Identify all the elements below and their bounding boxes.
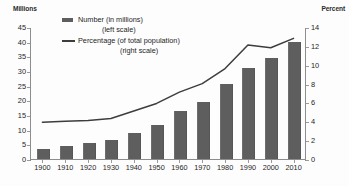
y-axis-left-tick xyxy=(27,116,30,117)
y-axis-left-tick-label: 45 xyxy=(18,24,26,31)
y-axis-left-tick-label: 35 xyxy=(18,53,26,60)
x-axis-tick-label: 2010 xyxy=(285,164,301,171)
x-axis-tick-label: 1900 xyxy=(34,164,50,171)
y-axis-left-tick xyxy=(27,131,30,132)
y-axis-left-tick-label: 20 xyxy=(18,97,26,104)
plot-area: 051015202530354045 02468101214 190019101… xyxy=(31,28,305,160)
y-axis-left-tick-label: 10 xyxy=(18,127,26,134)
y-axis-right-tick xyxy=(306,103,309,104)
y-axis-right-tick-label: 10 xyxy=(311,62,319,69)
y-axis-left-tick xyxy=(27,43,30,44)
x-axis-tick-label: 1980 xyxy=(217,164,233,171)
x-axis-tick-label: 1990 xyxy=(240,164,256,171)
y-axis-right-tick xyxy=(306,47,309,48)
y-axis-left-tick xyxy=(27,145,30,146)
y-axis-left-tick-label: 25 xyxy=(18,83,26,90)
y-axis-right-tick-label: 12 xyxy=(311,43,319,50)
y-axis-left-tick-label: 15 xyxy=(18,112,26,119)
y-axis-right-title: Percent xyxy=(322,5,346,12)
x-axis-tick-label: 2000 xyxy=(263,164,279,171)
y-axis-right-tick-label: 8 xyxy=(311,81,315,88)
y-axis-left-tick-label: 0 xyxy=(22,156,26,163)
y-axis-right-tick-label: 0 xyxy=(311,156,315,163)
y-axis-left-title: Millions xyxy=(13,5,37,12)
x-axis-tick-label: 1960 xyxy=(171,164,187,171)
y-axis-left-tick xyxy=(27,57,30,58)
filled-rectangle-icon xyxy=(62,18,73,22)
y-axis-left-tick xyxy=(27,28,30,29)
y-axis-right-tick xyxy=(306,66,309,67)
y-axis-left-tick xyxy=(27,72,30,73)
y-axis-right-tick xyxy=(306,85,309,86)
y-axis-right-tick xyxy=(306,122,309,123)
x-axis-tick-label: 1970 xyxy=(194,164,210,171)
x-axis-tick-label: 1910 xyxy=(57,164,73,171)
y-axis-left-tick-label: 40 xyxy=(18,39,26,46)
y-axis-right-tick xyxy=(306,160,309,161)
x-axis-tick-label: 1930 xyxy=(103,164,119,171)
x-axis-tick-label: 1950 xyxy=(148,164,164,171)
y-axis-left-tick-label: 30 xyxy=(18,68,26,75)
x-axis-tick-label: 1940 xyxy=(126,164,142,171)
y-axis-right-tick xyxy=(306,141,309,142)
y-axis-right-tick-label: 2 xyxy=(311,137,315,144)
y-axis-right-tick-label: 14 xyxy=(311,24,319,31)
legend-row-number: Number (in millions) xyxy=(62,15,277,25)
y-axis-left-tick-label: 5 xyxy=(22,141,26,148)
percentage-polyline xyxy=(42,38,293,122)
foreign-born-population-chart: Millions Percent Number (in millions) (l… xyxy=(0,0,349,186)
legend-label-number: Number (in millions) xyxy=(78,15,143,25)
line-series-percentage xyxy=(31,28,305,160)
y-axis-right-tick-label: 6 xyxy=(311,99,315,106)
y-axis-left-tick xyxy=(27,87,30,88)
y-axis-right-tick xyxy=(306,28,309,29)
y-axis-right-tick-label: 4 xyxy=(311,118,315,125)
y-axis-left-tick xyxy=(27,160,30,161)
y-axis-left-tick xyxy=(27,101,30,102)
x-axis-tick-label: 1920 xyxy=(80,164,96,171)
